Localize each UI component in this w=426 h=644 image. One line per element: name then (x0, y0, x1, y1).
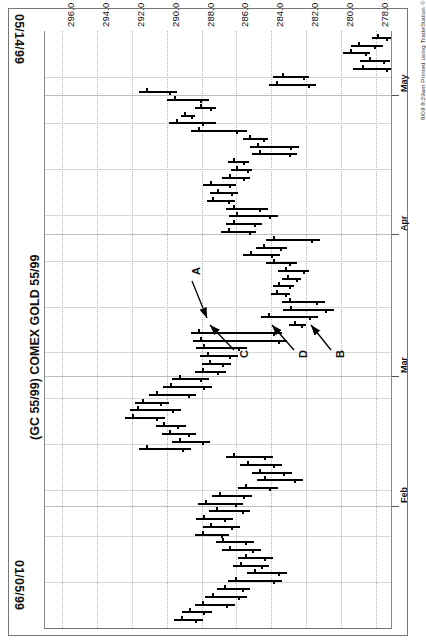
ohlc-close-tick (316, 302, 318, 305)
ohlc-close-tick (273, 581, 275, 584)
ohlc-open-tick (170, 383, 172, 386)
ohlc-close-tick (289, 263, 291, 266)
ohlc-close-tick (226, 605, 228, 608)
price-gridline (202, 31, 203, 628)
ohlc-close-tick (264, 457, 266, 460)
time-gridline (45, 307, 391, 308)
ohlc-close-tick (231, 527, 233, 530)
ohlc-open-tick (198, 329, 200, 332)
ohlc-bar-range (125, 417, 165, 419)
ohlc-open-tick (264, 476, 266, 479)
month-label: Feb (399, 487, 409, 503)
ohlc-close-tick (243, 496, 245, 499)
ohlc-open-tick (278, 282, 280, 285)
start-date-stamp: 01/05/99 (12, 560, 26, 610)
time-gridline (45, 215, 391, 216)
time-gridline (45, 261, 391, 262)
ohlc-close-tick (202, 123, 204, 126)
ohlc-bar-range (172, 441, 210, 443)
ohlc-open-tick (263, 244, 265, 247)
ohlc-open-tick (137, 406, 139, 409)
time-gridline (45, 536, 391, 537)
ohlc-bar-range (243, 254, 280, 256)
ohlc-close-tick (245, 542, 247, 545)
ohlc-close-tick (325, 310, 327, 313)
ohlc-bar-range (226, 223, 263, 225)
ohlc-close-tick (222, 364, 224, 367)
ohlc-close-tick (188, 434, 190, 437)
ohlc-close-tick (195, 620, 197, 623)
ohlc-open-tick (294, 321, 296, 324)
price-tick-label: 288.0 (205, 3, 216, 27)
ohlc-close-tick (224, 519, 226, 522)
ohlc-open-tick (217, 189, 219, 192)
ohlc-close-tick (249, 232, 251, 235)
ohlc-close-tick (188, 395, 190, 398)
ohlc-close-tick (172, 410, 174, 413)
ohlc-open-tick (216, 507, 218, 510)
ohlc-open-tick (176, 119, 178, 122)
ohlc-close-tick (296, 279, 298, 282)
ohlc-bar-range (273, 285, 294, 287)
month-gridline (45, 506, 391, 507)
price-tick-label: 280.0 (344, 3, 355, 27)
ohlc-open-tick (224, 585, 226, 588)
ohlc-bar-range (195, 371, 226, 373)
ohlc-bar-range (205, 596, 247, 598)
annotation-label-d: D (297, 350, 309, 358)
ohlc-open-tick (362, 65, 364, 68)
annotation-label-c: C (238, 350, 250, 358)
ohlc-open-tick (285, 267, 287, 270)
ohlc-close-tick (308, 85, 310, 88)
price-tick-label: 286.0 (239, 3, 250, 27)
ohlc-close-tick (283, 473, 285, 476)
price-tick-label: 290.0 (170, 3, 181, 27)
ohlc-open-tick (245, 484, 247, 487)
ohlc-close-tick (221, 535, 223, 538)
ohlc-bar-range (203, 526, 240, 528)
ohlc-bar-range (238, 487, 278, 489)
ohlc-open-tick (350, 49, 352, 52)
price-gridline (97, 31, 98, 628)
ohlc-bar-range (135, 402, 168, 404)
ohlc-bar-range (196, 518, 233, 520)
plot-area[interactable] (44, 31, 392, 628)
price-gridline (62, 31, 63, 628)
ohlc-open-tick (200, 104, 202, 107)
month-tick-mark (392, 506, 399, 507)
time-gridline (45, 169, 391, 170)
ohlc-bar-range (252, 472, 292, 474)
ohlc-open-tick (229, 546, 231, 549)
ohlc-open-tick (184, 112, 186, 115)
price-tick-label: 294.0 (100, 3, 111, 27)
ohlc-open-tick (254, 569, 256, 572)
ohlc-open-tick (212, 593, 214, 596)
ohlc-close-tick (242, 589, 244, 592)
ohlc-bar-range (193, 340, 287, 342)
ohlc-open-tick (233, 158, 235, 161)
ohlc-close-tick (243, 162, 245, 165)
ohlc-bar-range (162, 433, 197, 435)
ohlc-bar-range (210, 192, 238, 194)
ohlc-close-tick (236, 131, 238, 134)
annotation-label-b: B (334, 350, 346, 358)
ohlc-open-tick (233, 453, 235, 456)
ohlc-open-tick (209, 360, 211, 363)
ohlc-open-tick (200, 337, 202, 340)
price-gridline (341, 31, 342, 628)
ohlc-close-tick (210, 108, 212, 111)
copyright-notice: 8/09 8:29am Printed using TradeStation ©… (419, 0, 426, 120)
ohlc-bar-range (167, 99, 209, 101)
ohlc-bar-range (351, 45, 382, 47)
ohlc-bar-range (195, 534, 230, 536)
price-gridline (376, 31, 377, 628)
ohlc-close-tick (261, 566, 263, 569)
ohlc-close-tick (278, 573, 280, 576)
ohlc-close-tick (309, 317, 311, 320)
ohlc-bar-range (360, 60, 390, 62)
month-tick-mark (392, 234, 399, 235)
ohlc-bar-range (209, 510, 251, 512)
ohlc-open-tick (276, 290, 278, 293)
price-gridline (167, 31, 168, 628)
ohlc-bar-range (240, 464, 282, 466)
